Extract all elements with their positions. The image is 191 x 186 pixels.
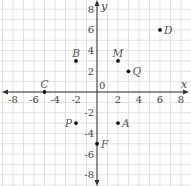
- y-axis-arrow-up-icon: [95, 0, 100, 6]
- point-a-dot: [116, 121, 120, 125]
- point-p-dot: [74, 121, 78, 125]
- x-tick-label: -2: [71, 94, 81, 105]
- point-p-label: P: [64, 117, 73, 129]
- point-b-dot: [74, 59, 78, 63]
- x-tick-label: 2: [115, 94, 121, 105]
- y-tick-label: -4: [84, 128, 94, 139]
- point-f-label: F: [100, 138, 109, 150]
- point-q-dot: [127, 69, 131, 73]
- x-tick-label: 4: [136, 94, 142, 105]
- point-d-label: D: [163, 24, 173, 36]
- x-tick-label: 8: [178, 94, 184, 105]
- y-axis-label: y: [100, 0, 108, 13]
- axes: xy0: [2, 0, 189, 186]
- y-tick-label: -8: [84, 169, 94, 180]
- point-d-dot: [158, 28, 162, 32]
- y-tick-label: 6: [88, 24, 94, 35]
- point-f-dot: [95, 142, 99, 146]
- point-m-label: M: [112, 47, 124, 59]
- y-tick-label: -6: [84, 149, 94, 160]
- y-tick-label: 2: [88, 66, 94, 77]
- x-axis-arrow-left-icon: [2, 90, 8, 95]
- point-m-dot: [116, 59, 120, 63]
- point-q-label: Q: [133, 65, 142, 78]
- point-a-label: A: [121, 117, 130, 129]
- grid-lines: [0, 0, 191, 186]
- point-c-dot: [43, 90, 47, 94]
- coordinate-plane: xy0 -8-6-4-224688642-2-4-6-8 BMQDCPAF: [0, 0, 191, 186]
- point-b-label: B: [71, 47, 80, 59]
- x-axis-label: x: [181, 78, 188, 91]
- y-tick-label: -2: [84, 107, 94, 118]
- y-tick-label: 4: [88, 45, 94, 56]
- origin-label: 0: [99, 80, 105, 91]
- x-tick-label: 6: [157, 94, 163, 105]
- x-tick-label: -4: [50, 94, 60, 105]
- x-tick-label: -8: [8, 94, 18, 105]
- point-c-label: C: [40, 78, 48, 90]
- points: BMQDCPAF: [40, 24, 173, 150]
- y-tick-label: 8: [88, 4, 94, 15]
- x-tick-label: -6: [29, 94, 39, 105]
